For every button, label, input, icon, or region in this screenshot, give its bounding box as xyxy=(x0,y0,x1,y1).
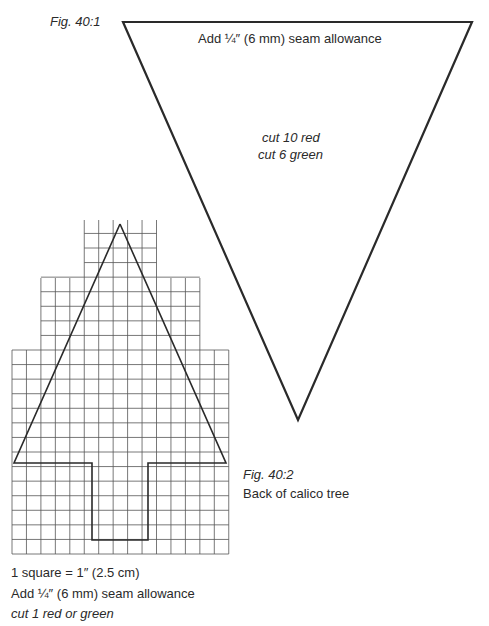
pattern-grid xyxy=(12,220,229,554)
figure1-label: Fig. 40:1 xyxy=(50,14,101,29)
figure2-title: Back of calico tree xyxy=(243,486,349,501)
figure2-cut-note: cut 1 red or green xyxy=(11,606,114,621)
figure2-seam-note: Add ¼″ (6 mm) seam allowance xyxy=(11,586,195,601)
scale-note: 1 square = 1″ (2.5 cm) xyxy=(11,565,140,580)
tree-outline xyxy=(14,224,226,540)
figure1-seam-note: Add ¼″ (6 mm) seam allowance xyxy=(198,31,382,46)
figure2-label: Fig. 40:2 xyxy=(243,467,294,482)
pennant-triangle xyxy=(123,22,472,420)
figure1-cut-green: cut 6 green xyxy=(258,147,323,162)
figure1-cut-red: cut 10 red xyxy=(262,130,320,145)
pattern-diagram xyxy=(0,0,489,626)
